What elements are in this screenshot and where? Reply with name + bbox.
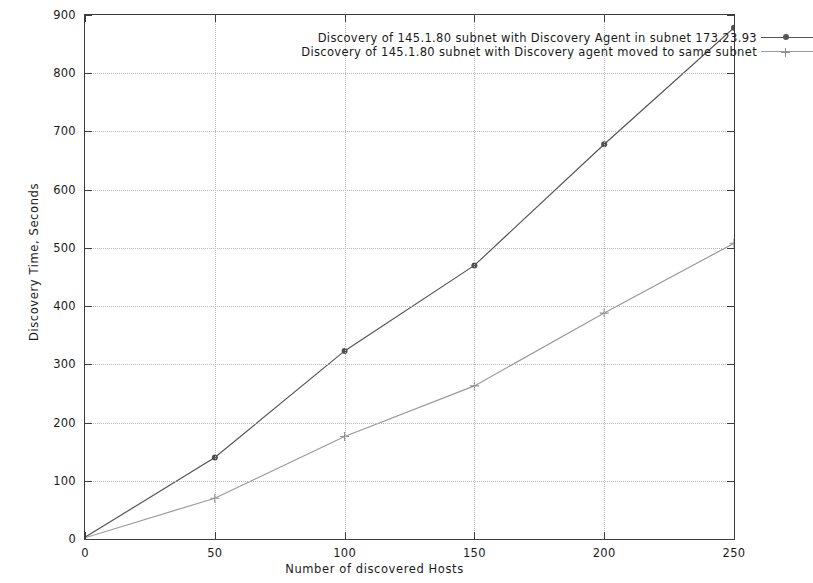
y-axis-tick-label: 300	[16, 357, 76, 371]
x-axis-tick	[345, 532, 346, 539]
y-axis-tick	[85, 306, 92, 307]
gridline-horizontal	[85, 190, 734, 191]
legend-label: Discovery of 145.1.80 subnet with Discov…	[318, 31, 757, 45]
y-axis-tick-label: 200	[16, 416, 76, 430]
x-axis-tick-label: 0	[55, 546, 115, 560]
x-axis-tick	[604, 15, 605, 22]
legend-label: Discovery of 145.1.80 subnet with Discov…	[301, 45, 757, 59]
y-axis-tick	[727, 306, 734, 307]
x-axis-tick	[215, 532, 216, 539]
x-axis-tick	[215, 15, 216, 22]
y-axis-tick	[85, 131, 92, 132]
y-axis-tick	[727, 190, 734, 191]
y-axis-tick	[727, 131, 734, 132]
y-axis-tick	[727, 15, 734, 16]
x-axis-tick-label: 200	[574, 546, 634, 560]
y-axis-tick-label: 600	[16, 183, 76, 197]
series-lines	[85, 15, 734, 539]
y-axis-tick-label: 100	[16, 474, 76, 488]
y-axis-tick	[85, 481, 92, 482]
y-axis-tick-label: 500	[16, 241, 76, 255]
y-axis-tick	[727, 481, 734, 482]
gridline-horizontal	[85, 423, 734, 424]
x-axis-tick	[345, 15, 346, 22]
plot-area: Discovery of 145.1.80 subnet with Discov…	[84, 14, 735, 540]
y-axis-tick	[85, 190, 92, 191]
y-axis-title: Discovery Time, Seconds	[27, 132, 41, 392]
x-axis-tick	[734, 15, 735, 22]
y-axis-tick	[85, 15, 92, 16]
gridline-vertical	[474, 15, 475, 539]
gridline-vertical	[215, 15, 216, 539]
y-axis-tick	[85, 364, 92, 365]
gridline-horizontal	[85, 481, 734, 482]
legend-entry-1: Discovery of 145.1.80 subnet with Discov…	[235, 45, 813, 59]
data-point-marker	[730, 239, 735, 248]
plus-marker-icon	[781, 48, 790, 57]
y-axis-tick	[727, 423, 734, 424]
gridline-horizontal	[85, 131, 734, 132]
gridline-horizontal	[85, 248, 734, 249]
x-axis-tick-label: 250	[704, 546, 764, 560]
gridline-horizontal	[85, 364, 734, 365]
y-axis-tick-label: 800	[16, 66, 76, 80]
y-axis-tick	[85, 73, 92, 74]
y-axis-tick-label: 400	[16, 299, 76, 313]
x-axis-tick-label: 50	[185, 546, 245, 560]
y-axis-tick	[85, 248, 92, 249]
x-axis-tick	[85, 532, 86, 539]
series-line	[85, 28, 734, 538]
y-axis-tick-label: 900	[16, 8, 76, 22]
x-axis-tick	[734, 532, 735, 539]
legend-entry-0: Discovery of 145.1.80 subnet with Discov…	[235, 31, 813, 45]
y-axis-tick	[727, 364, 734, 365]
gridline-vertical	[345, 15, 346, 539]
y-axis-tick	[727, 73, 734, 74]
x-axis-tick	[474, 532, 475, 539]
chart-legend: Discovery of 145.1.80 subnet with Discov…	[235, 31, 813, 59]
series-0	[85, 25, 734, 538]
x-axis-tick-label: 150	[444, 546, 504, 560]
x-axis-tick	[604, 532, 605, 539]
x-axis-title: Number of discovered Hosts	[0, 562, 749, 576]
gridline-horizontal	[85, 73, 734, 74]
x-axis-tick	[85, 15, 86, 22]
x-axis-tick-label: 100	[315, 546, 375, 560]
y-axis-tick-label: 700	[16, 124, 76, 138]
y-axis-tick	[727, 248, 734, 249]
dot-marker-icon	[783, 34, 789, 40]
gridline-vertical	[604, 15, 605, 539]
y-axis-tick	[85, 423, 92, 424]
y-axis-tick-label: 0	[16, 532, 76, 546]
x-axis-tick	[474, 15, 475, 22]
y-axis-tick	[85, 539, 92, 540]
series-line	[85, 243, 734, 538]
y-axis-tick	[727, 539, 734, 540]
series-1	[85, 239, 734, 538]
gridline-horizontal	[85, 306, 734, 307]
